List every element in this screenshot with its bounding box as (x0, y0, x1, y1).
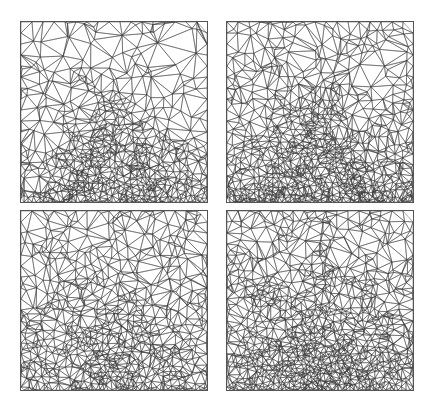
mesh-canvas (227, 22, 413, 202)
mesh-canvas (21, 211, 207, 390)
mesh-canvas (21, 22, 207, 202)
mesh-panel-top-right (226, 21, 414, 203)
mesh-panel-bottom-right (226, 210, 414, 391)
mesh-panel-top-left (20, 21, 208, 203)
mesh-panel-bottom-left (20, 210, 208, 391)
mesh-canvas (227, 211, 413, 390)
